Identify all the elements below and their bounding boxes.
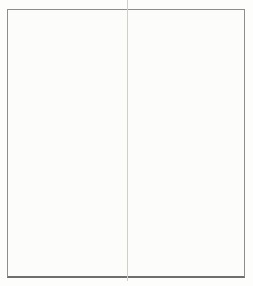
figure-page bbox=[0, 0, 253, 286]
stacked-bar-chart bbox=[0, 0, 253, 286]
